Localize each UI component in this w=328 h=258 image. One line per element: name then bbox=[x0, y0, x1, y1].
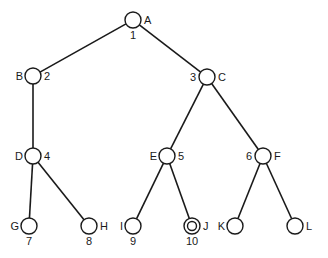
node-label: H bbox=[100, 220, 108, 232]
node-label: B bbox=[16, 70, 23, 82]
node-l: L bbox=[287, 218, 312, 234]
node-circle bbox=[287, 218, 303, 234]
node-i: I9 bbox=[120, 218, 141, 247]
edges bbox=[29, 24, 291, 220]
node-label: L bbox=[306, 220, 312, 232]
visit-order: 4 bbox=[44, 150, 50, 162]
node-d: D4 bbox=[15, 148, 50, 164]
node-circle bbox=[227, 218, 243, 234]
edge-f-l bbox=[266, 163, 291, 218]
node-g: G7 bbox=[10, 218, 37, 247]
visit-order: 7 bbox=[26, 235, 32, 247]
goal-inner-circle bbox=[188, 222, 197, 231]
edge-c-f bbox=[212, 84, 259, 150]
edge-d-g bbox=[29, 164, 32, 218]
visit-order: 1 bbox=[130, 29, 136, 41]
node-a: A1 bbox=[125, 12, 152, 41]
node-circle bbox=[125, 218, 141, 234]
visit-order: 9 bbox=[130, 235, 136, 247]
edge-e-j bbox=[170, 164, 190, 219]
node-k: K bbox=[218, 218, 243, 234]
node-label: A bbox=[144, 14, 152, 26]
node-circle bbox=[255, 148, 271, 164]
node-circle bbox=[81, 218, 97, 234]
visit-order: 2 bbox=[44, 70, 50, 82]
node-label: E bbox=[150, 150, 157, 162]
visit-order: 10 bbox=[186, 235, 198, 247]
node-label: F bbox=[274, 150, 281, 162]
node-circle bbox=[125, 12, 141, 28]
node-circle bbox=[159, 148, 175, 164]
node-f: F6 bbox=[246, 148, 281, 164]
visit-order: 5 bbox=[178, 150, 184, 162]
visit-order: 8 bbox=[86, 235, 92, 247]
edge-a-b bbox=[40, 24, 126, 72]
edge-c-e bbox=[171, 84, 204, 149]
node-h: H8 bbox=[81, 218, 108, 247]
node-label: J bbox=[203, 220, 209, 232]
node-label: K bbox=[218, 220, 226, 232]
edge-d-h bbox=[38, 162, 84, 220]
node-circle bbox=[25, 68, 41, 84]
edge-e-i bbox=[136, 163, 163, 219]
visit-order: 6 bbox=[246, 150, 252, 162]
node-label: G bbox=[10, 220, 19, 232]
edge-a-c bbox=[139, 25, 200, 72]
node-label: D bbox=[15, 150, 23, 162]
node-label: C bbox=[218, 71, 226, 83]
node-b: B2 bbox=[16, 68, 50, 84]
nodes: A1B2C3D4E5F6G7H8I9J10KL bbox=[10, 12, 312, 247]
node-label: I bbox=[120, 220, 123, 232]
node-circle bbox=[25, 148, 41, 164]
visit-order: 3 bbox=[190, 71, 196, 83]
node-e: E5 bbox=[150, 148, 184, 164]
node-circle bbox=[199, 69, 215, 85]
node-j: J10 bbox=[184, 218, 209, 247]
tree-diagram: A1B2C3D4E5F6G7H8I9J10KL bbox=[0, 0, 328, 258]
node-circle bbox=[21, 218, 37, 234]
edge-f-k bbox=[238, 163, 260, 218]
node-c: C3 bbox=[190, 69, 226, 85]
